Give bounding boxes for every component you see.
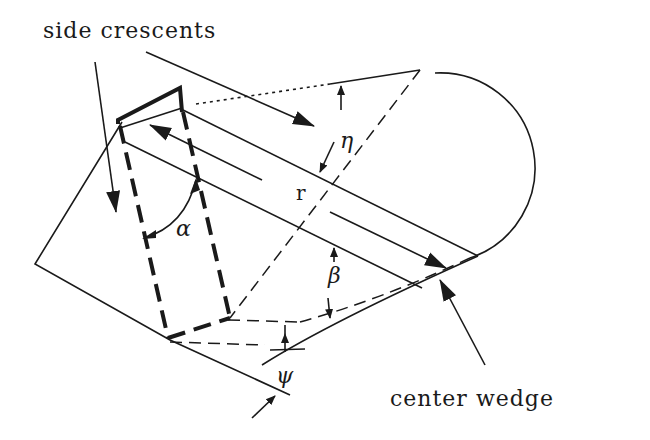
top-triangle-edge bbox=[330, 70, 420, 84]
psi-arrowhead bbox=[281, 333, 289, 343]
eta-reference-dotted-line bbox=[196, 84, 330, 104]
crescent-arc bbox=[435, 73, 535, 258]
cutter-bottom-dashed-edge bbox=[168, 318, 230, 338]
diagram-canvas: side crescents center wedge r η α β ψ bbox=[0, 0, 650, 440]
eta-arrow-down bbox=[320, 142, 334, 172]
center-wedge-pointer bbox=[440, 280, 485, 365]
radius-label: r bbox=[296, 181, 306, 205]
r-arrow-forward bbox=[330, 212, 446, 268]
apex-dashed-diagonal bbox=[230, 70, 420, 318]
r-arrow-back bbox=[150, 125, 262, 180]
alpha-label: α bbox=[176, 216, 191, 241]
cutter-right-dashed-edge bbox=[183, 112, 230, 318]
wedge-dashed-horizontal-upper bbox=[228, 320, 300, 322]
plate-upper-long-edge bbox=[183, 110, 478, 256]
plate-lower-long-edge bbox=[125, 142, 422, 288]
psi-reference-line bbox=[270, 349, 305, 350]
psi-angle-arrow bbox=[252, 396, 275, 418]
outer-left-outline bbox=[35, 122, 290, 395]
beta-label: β bbox=[327, 263, 341, 288]
side-crescents-pointer-right bbox=[146, 52, 314, 126]
side-crescents-label: side crescents bbox=[43, 18, 216, 43]
center-wedge-label: center wedge bbox=[390, 386, 554, 411]
wedge-dashed-horizontal-lower bbox=[170, 342, 265, 345]
psi-label: ψ bbox=[276, 363, 294, 388]
cutter-left-dashed-edge bbox=[120, 126, 168, 338]
beta-arrow-down bbox=[328, 298, 330, 318]
eta-label: η bbox=[340, 128, 353, 153]
